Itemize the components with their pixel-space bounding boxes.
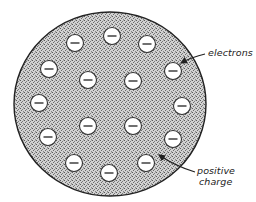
electron-icon (101, 165, 118, 182)
electron-icon (67, 35, 84, 52)
electron-icon (80, 72, 97, 89)
electron-icon (125, 118, 142, 135)
electron-icon (165, 63, 182, 80)
electron-icon (40, 129, 57, 146)
electron-icon (41, 61, 58, 78)
electron-icon (138, 155, 155, 172)
electron-icon (66, 155, 83, 172)
electron-icon (125, 73, 142, 90)
electron-icon (104, 28, 121, 45)
electron-icon (165, 131, 182, 148)
positive-charge-label-line2: charge (199, 177, 232, 187)
electron-icon (174, 98, 191, 115)
electron-icon (80, 118, 97, 135)
electrons-label: electrons (208, 48, 253, 58)
electron-icon (139, 36, 156, 53)
electron-icon (31, 95, 48, 112)
positive-charge-label-line1: positive (197, 166, 235, 176)
